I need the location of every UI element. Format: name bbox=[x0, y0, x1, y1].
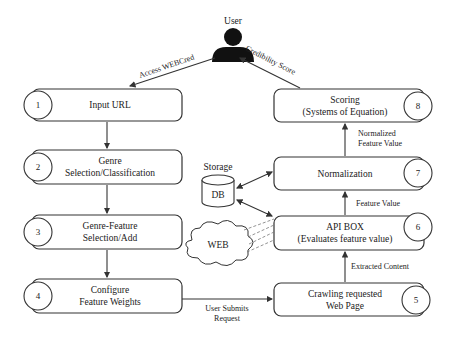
web-label: WEB bbox=[207, 240, 228, 250]
step-5: 5 Crawling requested Web Page bbox=[274, 283, 430, 316]
step-3-number: 3 bbox=[36, 227, 41, 237]
step-2: 2 Genre Selection/Classification bbox=[24, 150, 182, 184]
webcred-architecture-diagram: User Access WEBCred Credibility Score 1 … bbox=[0, 0, 455, 344]
step-5-number: 5 bbox=[414, 295, 419, 305]
step-7-label: Normalization bbox=[318, 169, 373, 179]
step-2-number: 2 bbox=[36, 162, 41, 172]
web-link-2 bbox=[248, 225, 274, 237]
db-label: DB bbox=[211, 190, 224, 200]
step-5-line1: Crawling requested bbox=[308, 289, 382, 299]
step-1-number: 1 bbox=[36, 100, 41, 110]
normalized-label-line2: Feature Value bbox=[358, 139, 403, 148]
step-8: 8 Scoring (Systems of Equation) bbox=[274, 89, 432, 122]
step-4-number: 4 bbox=[36, 291, 41, 301]
step-4: 4 Configure Feature Weights bbox=[24, 279, 182, 313]
step-1: 1 Input URL bbox=[24, 89, 182, 121]
step-8-number: 8 bbox=[416, 101, 421, 111]
extracted-label: Extracted Content bbox=[351, 262, 410, 271]
step-8-line1: Scoring bbox=[330, 95, 360, 105]
step-1-label: Input URL bbox=[89, 100, 131, 110]
user-label: User bbox=[224, 16, 243, 26]
step-6-line2: (Evaluates feature value) bbox=[298, 234, 393, 245]
step-3-line1: Genre-Feature bbox=[83, 221, 138, 231]
web-link-1 bbox=[244, 219, 274, 230]
step-6-number: 6 bbox=[416, 222, 421, 232]
step-8-line2: (Systems of Equation) bbox=[303, 107, 388, 118]
access-label: Access WEBCred bbox=[138, 53, 196, 80]
submit-label-line2: Request bbox=[214, 314, 241, 323]
step-4-line2: Feature Weights bbox=[79, 297, 141, 307]
step-5-line2: Web Page bbox=[326, 301, 364, 311]
step-3-line2: Selection/Add bbox=[83, 233, 138, 243]
step-6-line1: API BOX bbox=[326, 222, 364, 232]
step-2-line2: Selection/Classification bbox=[65, 168, 155, 178]
step-6: 6 API BOX (Evaluates feature value) bbox=[274, 213, 432, 250]
step-3: 3 Genre-Feature Selection/Add bbox=[24, 215, 182, 249]
step-4-line1: Configure bbox=[91, 285, 130, 295]
step-7: 7 Normalization bbox=[274, 157, 432, 190]
normalized-label-line1: Normalized bbox=[358, 129, 396, 138]
submit-label-line1: User Submits bbox=[205, 304, 248, 313]
db-apibox-arrow bbox=[237, 200, 272, 216]
step-2-line1: Genre bbox=[98, 156, 121, 166]
step-7-number: 7 bbox=[416, 168, 421, 178]
feature-value-label: Feature Value bbox=[356, 199, 401, 208]
db-normalization-arrow bbox=[237, 172, 272, 188]
storage-label: Storage bbox=[203, 162, 232, 172]
